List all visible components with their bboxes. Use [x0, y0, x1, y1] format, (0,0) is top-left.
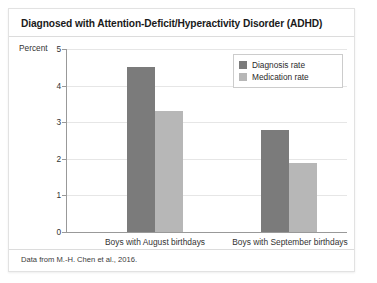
source-divider	[9, 249, 354, 250]
y-tick-label-0: 0	[47, 228, 61, 236]
y-tick-label-3: 3	[47, 118, 61, 126]
legend-label-medication: Medication rate	[252, 72, 309, 82]
y-tick-label-2: 2	[47, 155, 61, 163]
y-axis-title: Percent	[19, 43, 48, 53]
y-tick-label-5: 5	[47, 45, 61, 53]
y-tick-label-4: 4	[47, 82, 61, 90]
gridline-3	[67, 122, 347, 123]
gridline-2	[67, 159, 347, 160]
x-axis-line	[66, 232, 347, 233]
legend-swatch-medication-icon	[239, 73, 247, 81]
gridline-5	[67, 49, 347, 50]
chart-legend: Diagnosis rate Medication rate	[233, 54, 343, 88]
x-tick-label-august: Boys with August birthdays	[90, 237, 220, 247]
legend-swatch-diagnosis-icon	[239, 61, 247, 69]
y-axis-line	[66, 49, 67, 232]
bar-chart-plot: Percent 5 4 3 2 1 0 Boys with August bir…	[9, 9, 354, 271]
bar-september-diagnosis	[261, 130, 289, 233]
legend-entry-diagnosis: Diagnosis rate	[239, 59, 337, 71]
legend-label-diagnosis: Diagnosis rate	[252, 60, 305, 70]
source-note: Data from M.-H. Chen et al., 2016.	[21, 255, 137, 264]
bar-august-diagnosis	[127, 67, 155, 232]
x-tick-label-september: Boys with September birthdays	[219, 237, 361, 247]
y-tick-label-1: 1	[47, 191, 61, 199]
legend-entry-medication: Medication rate	[239, 71, 337, 83]
figure-card: Diagnosed with Attention-Deficit/Hyperac…	[8, 8, 355, 272]
bar-august-medication	[155, 111, 183, 232]
bar-september-medication	[289, 163, 317, 233]
